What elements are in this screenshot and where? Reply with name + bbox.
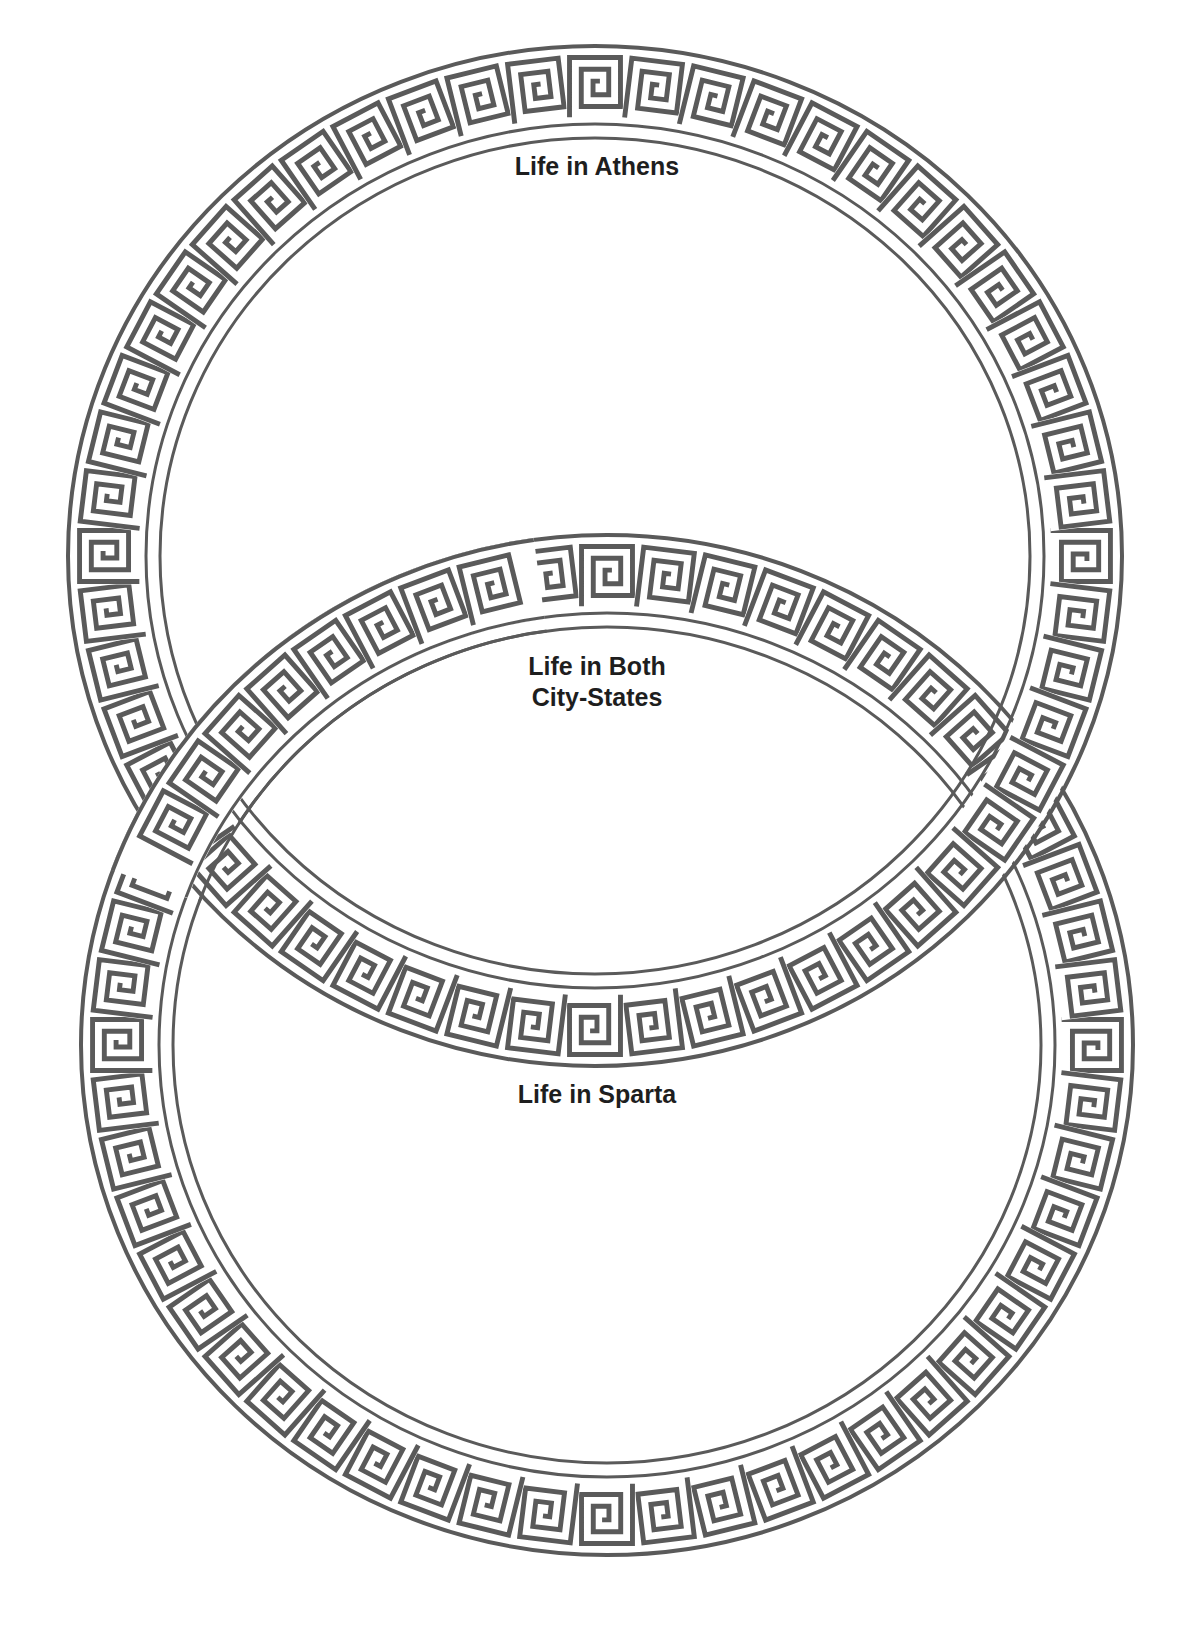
athens-label: Life in Athens <box>397 151 797 182</box>
overlap-zone <box>260 720 940 960</box>
sparta-zone <box>200 1110 990 1430</box>
athens-zone <box>200 190 990 490</box>
both-city-states-label: Life in Both City-States <box>397 651 797 713</box>
sparta-label: Life in Sparta <box>397 1079 797 1110</box>
